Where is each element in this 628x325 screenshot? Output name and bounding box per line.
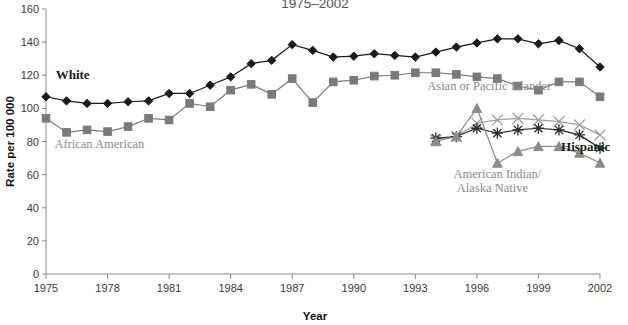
data-point-series-2 <box>42 115 50 123</box>
data-point-series-4 <box>492 128 503 139</box>
chart-title: 1975–2002 <box>281 0 349 11</box>
data-point-series-2 <box>288 75 296 83</box>
data-point-series-2 <box>329 78 337 86</box>
data-point-series-2 <box>596 93 604 101</box>
data-point-series-1 <box>329 53 337 61</box>
data-point-series-1 <box>350 52 358 60</box>
data-point-series-1 <box>165 89 173 97</box>
data-point-series-2 <box>206 103 214 111</box>
data-point-series-1 <box>42 93 50 101</box>
data-point-series-1 <box>247 59 255 67</box>
data-point-series-2 <box>350 76 358 84</box>
data-point-series-2 <box>63 129 71 137</box>
data-point-series-2 <box>124 123 132 131</box>
data-point-series-1 <box>226 73 234 81</box>
data-point-series-1 <box>452 43 460 51</box>
series-annotation-1: White <box>56 67 90 82</box>
data-point-series-1 <box>62 97 70 105</box>
y-axis-tick-label: 80 <box>27 136 39 148</box>
data-point-series-2 <box>555 78 563 86</box>
data-point-series-5 <box>472 104 482 113</box>
series-line-series-1 <box>46 39 600 104</box>
y-axis-tick-label: 60 <box>27 169 39 181</box>
chart-container: 1975–20020204060801001201401601975197819… <box>0 0 628 325</box>
series-annotation-5: American Indian/ <box>454 167 542 181</box>
data-point-series-1 <box>411 53 419 61</box>
x-axis-tick-label: 1999 <box>526 282 550 294</box>
y-axis-tick-label: 0 <box>33 268 39 280</box>
data-point-series-2 <box>227 86 235 94</box>
y-axis-tick-label: 160 <box>21 3 39 15</box>
y-axis-title: Rate per 100 000 <box>4 96 16 187</box>
data-point-series-4 <box>553 124 564 135</box>
data-point-series-1 <box>493 35 501 43</box>
data-point-series-4 <box>512 124 523 135</box>
data-point-series-1 <box>370 50 378 58</box>
x-axis-tick-label: 1990 <box>342 282 366 294</box>
data-point-series-2 <box>412 69 420 77</box>
data-point-series-2 <box>104 128 112 136</box>
data-point-series-2 <box>186 100 194 108</box>
data-point-series-2 <box>309 99 317 107</box>
data-point-series-1 <box>534 40 542 48</box>
data-point-series-1 <box>432 48 440 56</box>
x-axis-tick-label: 2002 <box>588 282 612 294</box>
x-axis-tick-label: 1984 <box>218 282 242 294</box>
data-point-series-1 <box>144 97 152 105</box>
data-point-series-1 <box>103 99 111 107</box>
data-point-series-2 <box>370 72 378 80</box>
data-point-series-1 <box>309 46 317 54</box>
data-point-series-4 <box>533 123 544 134</box>
data-point-series-1 <box>555 36 563 44</box>
x-axis-tick-label: 1981 <box>157 282 181 294</box>
y-axis-tick-label: 20 <box>27 235 39 247</box>
data-point-series-2 <box>453 71 461 79</box>
data-point-series-1 <box>473 39 481 47</box>
x-axis-tick-label: 1975 <box>34 282 58 294</box>
x-axis-tick-label: 1978 <box>95 282 119 294</box>
data-point-series-4 <box>471 123 482 134</box>
data-point-series-5 <box>493 158 503 167</box>
series-annotation-3: Asian or Pacific Islander <box>427 79 552 93</box>
data-point-series-1 <box>391 51 399 59</box>
data-point-series-5 <box>595 158 605 167</box>
data-point-series-1 <box>206 81 214 89</box>
data-point-series-2 <box>83 126 91 134</box>
data-point-series-2 <box>268 90 276 98</box>
series-annotation-4: Hispanic <box>561 139 610 154</box>
data-point-series-2 <box>165 116 173 124</box>
line-chart: 1975–20020204060801001201401601975197819… <box>0 0 628 325</box>
data-point-series-1 <box>124 98 132 106</box>
series-annotation-5-line2: Alaska Native <box>457 181 529 195</box>
x-axis-title: Year <box>303 310 328 322</box>
y-axis-tick-label: 100 <box>21 102 39 114</box>
data-point-series-2 <box>145 115 153 123</box>
data-point-series-3 <box>574 120 585 131</box>
y-axis-tick-label: 120 <box>21 69 39 81</box>
series-annotation-2: African American <box>54 137 145 151</box>
data-point-series-2 <box>391 71 399 79</box>
y-axis-tick-label: 140 <box>21 36 39 48</box>
y-axis-tick-label: 40 <box>27 202 39 214</box>
data-point-series-1 <box>514 35 522 43</box>
data-point-series-1 <box>83 99 91 107</box>
data-point-series-1 <box>185 89 193 97</box>
data-point-series-2 <box>576 78 584 86</box>
data-point-series-2 <box>247 81 255 89</box>
x-axis-tick-label: 1993 <box>403 282 427 294</box>
x-axis-tick-label: 1987 <box>280 282 304 294</box>
x-axis-tick-label: 1996 <box>465 282 489 294</box>
data-point-series-2 <box>432 69 440 77</box>
